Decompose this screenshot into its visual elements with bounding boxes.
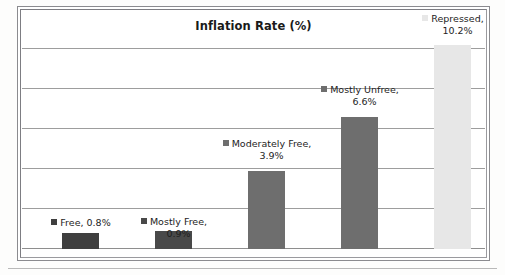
legend-swatch-icon <box>223 140 229 146</box>
data-label-mostly-unfree: Mostly Unfree, 6.6% <box>300 84 420 107</box>
data-label-mostly-unfree-text: Mostly Unfree, <box>330 84 399 95</box>
data-label-repressed-line1: Repressed, <box>393 13 486 25</box>
data-label-mostly-unfree-line1: Mostly Unfree, <box>300 84 420 96</box>
bar-mostly-unfree[interactable] <box>341 117 378 249</box>
legend-swatch-icon <box>141 218 147 224</box>
data-label-moderately-free: Moderately Free, 3.9% <box>207 138 327 161</box>
bar-free[interactable] <box>62 233 99 249</box>
data-label-mostly-free: Mostly Free, 0.9% <box>114 216 234 239</box>
data-label-moderately-free-line1: Moderately Free, <box>207 138 327 150</box>
data-label-repressed: Repressed, 10.2% <box>393 13 486 36</box>
data-label-mostly-unfree-line2: 6.6% <box>300 96 420 108</box>
data-label-mostly-free-text: Mostly Free, <box>150 216 207 227</box>
chart-plot-area: Inflation Rate (%) Free, 0.8% Mostl <box>21 10 486 257</box>
data-label-moderately-free-text: Moderately Free, <box>232 138 312 149</box>
data-label-mostly-free-line2: 0.9% <box>114 228 234 240</box>
bars <box>21 10 486 249</box>
data-label-repressed-line2: 10.2% <box>393 25 486 37</box>
data-label-repressed-text: Repressed, <box>431 13 483 24</box>
bar-repressed[interactable] <box>434 45 471 249</box>
legend-swatch-icon <box>321 86 327 92</box>
data-label-free-text: Free, 0.8% <box>60 217 110 228</box>
data-label-moderately-free-line2: 3.9% <box>207 150 327 162</box>
page-bottom-rule <box>8 268 497 269</box>
legend-swatch-icon <box>51 219 57 225</box>
data-label-mostly-free-line1: Mostly Free, <box>114 216 234 228</box>
chart-screenshot: Inflation Rate (%) Free, 0.8% Mostl <box>0 0 505 275</box>
legend-swatch-icon <box>422 15 428 21</box>
bar-moderately-free[interactable] <box>248 171 285 249</box>
